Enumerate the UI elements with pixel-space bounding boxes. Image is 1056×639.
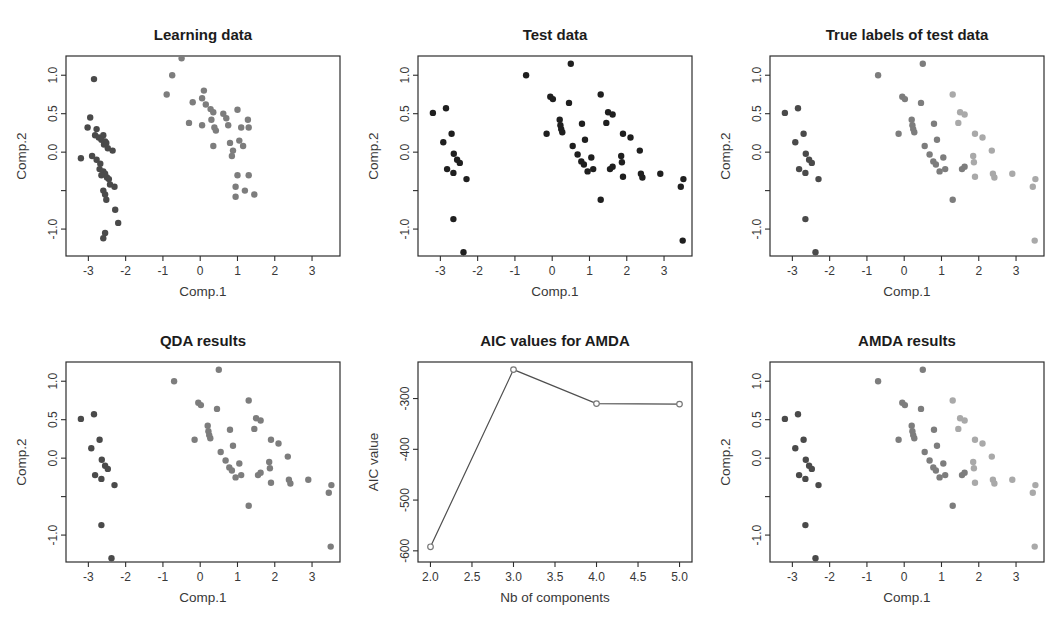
data-point xyxy=(448,131,454,137)
data-point xyxy=(246,397,252,403)
data-point xyxy=(574,151,580,157)
data-point xyxy=(201,87,207,93)
data-point xyxy=(792,445,798,451)
data-point xyxy=(208,117,214,123)
data-point xyxy=(171,378,177,384)
x-tick-label: 2 xyxy=(623,264,630,278)
data-point xyxy=(246,172,252,178)
data-point xyxy=(268,480,274,486)
data-point xyxy=(444,166,450,172)
data-point xyxy=(922,143,928,149)
data-point xyxy=(169,72,175,78)
x-tick-label: 1 xyxy=(938,570,945,584)
y-tick-label: -1.0 xyxy=(46,218,60,239)
y-axis-label: Comp.2 xyxy=(14,438,29,485)
data-point xyxy=(972,480,978,486)
data-point xyxy=(918,100,924,106)
data-point xyxy=(98,522,104,528)
data-point xyxy=(523,72,529,78)
data-point xyxy=(920,367,926,373)
data-point xyxy=(942,166,948,172)
x-tick-label: 2 xyxy=(271,264,278,278)
data-point xyxy=(111,184,117,190)
data-point xyxy=(933,467,939,473)
data-point xyxy=(955,426,961,432)
x-tick-label: 3 xyxy=(661,264,668,278)
data-point xyxy=(812,555,818,561)
data-point xyxy=(972,437,978,443)
aic-marker xyxy=(594,401,600,407)
data-point xyxy=(246,124,252,130)
data-point xyxy=(902,402,908,408)
data-point xyxy=(285,453,291,459)
data-point xyxy=(950,397,956,403)
data-point xyxy=(84,124,90,130)
data-point xyxy=(236,137,242,143)
data-point xyxy=(238,472,244,478)
panel-title: AMDA results xyxy=(858,332,956,349)
data-point xyxy=(305,477,311,483)
data-point xyxy=(609,164,615,170)
data-point xyxy=(895,437,901,443)
x-tick-label: -3 xyxy=(83,264,94,278)
data-point xyxy=(267,465,273,471)
data-point xyxy=(105,466,111,472)
data-point xyxy=(940,154,946,160)
panel-title: AIC values for AMDA xyxy=(480,332,630,349)
x-tick-label: 5.0 xyxy=(671,570,688,584)
data-point xyxy=(216,367,222,373)
data-point xyxy=(203,101,209,107)
data-point xyxy=(1032,176,1038,182)
scatter-points xyxy=(78,55,258,241)
data-point xyxy=(809,160,815,166)
data-point xyxy=(639,174,645,180)
panel-title: Learning data xyxy=(154,26,253,43)
data-point xyxy=(1032,543,1038,549)
data-point xyxy=(91,76,97,82)
data-point xyxy=(268,437,274,443)
y-tick-label: -1.0 xyxy=(750,524,764,545)
panel-test-data: Test data-3-2-101231.00.50.0-1.0Comp.1Co… xyxy=(352,0,704,320)
x-tick-label: -1 xyxy=(158,570,169,584)
data-point xyxy=(936,168,942,174)
data-point xyxy=(550,96,556,102)
panel-title: True labels of test data xyxy=(826,26,989,43)
data-point xyxy=(223,115,229,121)
x-tick-label: 1 xyxy=(938,264,945,278)
data-point xyxy=(232,184,238,190)
x-tick-label: 3 xyxy=(309,264,316,278)
data-point xyxy=(232,474,238,480)
data-point xyxy=(463,176,469,182)
x-tick-label: 3.5 xyxy=(547,570,564,584)
data-point xyxy=(895,131,901,137)
x-tick-label: -2 xyxy=(120,264,131,278)
data-point xyxy=(1009,171,1015,177)
data-point xyxy=(238,124,244,130)
data-point xyxy=(926,457,932,463)
data-point xyxy=(803,151,809,157)
data-point xyxy=(251,426,257,432)
data-point xyxy=(971,159,977,165)
data-point xyxy=(678,184,684,190)
data-point xyxy=(98,172,104,178)
data-point xyxy=(955,120,961,126)
data-point xyxy=(210,109,216,115)
aic-marker xyxy=(428,544,434,550)
data-point xyxy=(450,170,456,176)
data-point xyxy=(584,168,590,174)
data-point xyxy=(902,96,908,102)
data-point xyxy=(96,437,102,443)
y-tick-label: -1.0 xyxy=(750,218,764,239)
data-point xyxy=(909,423,915,429)
panel-qda-results: QDA results-3-2-101231.00.50.0-1.0Comp.1… xyxy=(0,320,352,639)
data-point xyxy=(815,482,821,488)
data-point xyxy=(111,482,117,488)
data-point xyxy=(178,55,184,61)
x-tick-label: 2 xyxy=(271,570,278,584)
chart-qda-results: QDA results-3-2-101231.00.50.0-1.0Comp.1… xyxy=(0,320,352,639)
aic-line xyxy=(431,370,680,547)
y-tick-label: 0.0 xyxy=(750,143,764,160)
data-point xyxy=(940,460,946,466)
data-point xyxy=(88,445,94,451)
chart-aic-values: AIC values for AMDA2.02.53.03.54.04.55.0… xyxy=(352,320,704,639)
